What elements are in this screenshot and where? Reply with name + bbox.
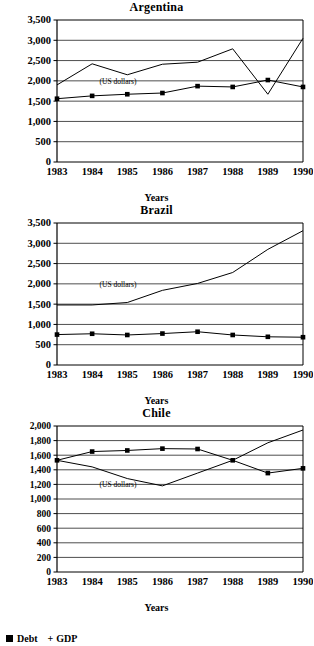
y-tick-label: 1,000: [27, 116, 51, 127]
x-tick-label: 1989: [257, 166, 278, 177]
x-tick-label: 1990: [293, 166, 314, 177]
x-tick-label: 1990: [293, 369, 314, 380]
panel-chile: Chile 02004006008001,0001,2001,4001,6001…: [0, 406, 313, 613]
y-tick-label: 1,800: [30, 436, 52, 446]
panel-brazil: Brazil 05001,0001,5002,0002,5003,0003,50…: [0, 203, 313, 406]
debt-data-point: [160, 331, 165, 336]
x-axis-title-brazil: Years: [0, 395, 313, 406]
debt-data-point: [195, 329, 200, 334]
y-tick-label: 2,000: [30, 421, 52, 431]
debt-data-point: [266, 335, 271, 340]
y-tick-label: 2,000: [27, 278, 51, 289]
x-tick-label: 1985: [117, 369, 138, 380]
y-tick-label: 400: [37, 538, 52, 548]
debt-data-point: [230, 85, 235, 90]
legend-label-gdp: GDP: [56, 633, 77, 644]
y-tick-label: 3,500: [27, 217, 51, 228]
y-tick-label: 500: [35, 339, 51, 350]
y-tick-label: 3,000: [27, 238, 51, 249]
x-tick-label: 1989: [257, 576, 278, 587]
x-tick-label: 1985: [117, 166, 138, 177]
y-tick-label: 1,500: [27, 299, 51, 310]
x-tick-label: 1984: [82, 576, 104, 587]
gdp-series-plus-icon: +: [48, 633, 54, 644]
debt-data-point: [230, 333, 235, 338]
chart-title-chile: Chile: [0, 406, 313, 420]
y-tick-label: 3,000: [27, 35, 51, 46]
x-tick-label: 1989: [257, 369, 278, 380]
y-tick-label: 600: [37, 524, 52, 534]
panel-argentina: Argentina 05001,0001,5002,0002,5003,0003…: [0, 0, 313, 203]
us-dollars-annotation: (US dollars): [100, 280, 137, 289]
chart-title-argentina: Argentina: [0, 0, 313, 14]
x-axis-title-chile: Years: [0, 602, 313, 613]
gdp-series-line: [57, 231, 303, 305]
y-tick-label: 2,500: [27, 55, 51, 66]
y-tick-label: 500: [35, 136, 51, 147]
x-tick-label: 1988: [222, 576, 243, 587]
y-tick-label: 1,000: [27, 319, 51, 330]
x-tick-label: 1986: [152, 369, 173, 380]
x-tick-label: 1985: [117, 576, 138, 587]
chart-svg-argentina: 05001,0001,5002,0002,5003,0003,500198319…: [0, 14, 313, 192]
x-tick-label: 1984: [82, 369, 104, 380]
x-tick-label: 1983: [47, 369, 68, 380]
debt-data-point: [125, 333, 130, 338]
debt-data-point: [55, 458, 60, 463]
plot-chile: 02004006008001,0001,2001,4001,6001,8002,…: [0, 420, 313, 602]
y-tick-label: 1,600: [30, 451, 52, 461]
y-tick-label: 200: [37, 553, 52, 563]
legend-label-debt: Debt: [17, 633, 38, 644]
legend: Debt + GDP: [6, 633, 87, 644]
y-tick-label: 3,500: [27, 14, 51, 25]
x-tick-label: 1990: [293, 576, 314, 587]
debt-data-point: [125, 448, 130, 453]
debt-data-point: [125, 92, 130, 97]
x-tick-label: 1988: [222, 166, 243, 177]
debt-data-point: [160, 446, 165, 451]
debt-data-point: [230, 458, 235, 463]
debt-data-point: [195, 447, 200, 452]
debt-data-point: [90, 331, 95, 336]
chart-title-brazil: Brazil: [0, 203, 313, 217]
chart-svg-brazil: 05001,0001,5002,0002,5003,0003,500198319…: [0, 217, 313, 395]
debt-data-point: [301, 85, 306, 90]
x-tick-label: 1987: [187, 369, 208, 380]
debt-data-point: [160, 91, 165, 96]
y-tick-label: 1,200: [30, 480, 52, 490]
x-tick-label: 1983: [47, 576, 68, 587]
debt-data-point: [195, 84, 200, 89]
debt-data-point: [90, 449, 95, 454]
debt-data-point: [301, 466, 306, 471]
x-tick-label: 1988: [222, 369, 243, 380]
plot-argentina: 05001,0001,5002,0002,5003,0003,500198319…: [0, 14, 313, 192]
x-tick-label: 1986: [152, 166, 173, 177]
debt-data-point: [90, 94, 95, 99]
x-axis-title-argentina: Years: [0, 192, 313, 203]
us-dollars-annotation: (US dollars): [100, 480, 137, 489]
debt-series-swatch-icon: [6, 635, 13, 642]
x-tick-label: 1987: [187, 576, 208, 587]
plot-brazil: 05001,0001,5002,0002,5003,0003,500198319…: [0, 217, 313, 395]
chart-svg-chile: 02004006008001,0001,2001,4001,6001,8002,…: [0, 420, 313, 602]
x-tick-label: 1984: [82, 166, 104, 177]
y-tick-label: 1,000: [30, 494, 52, 504]
y-tick-label: 1,500: [27, 96, 51, 107]
x-tick-label: 1983: [47, 166, 68, 177]
debt-data-point: [55, 332, 60, 337]
gdp-series-line: [57, 430, 303, 486]
y-tick-label: 2,500: [27, 258, 51, 269]
y-tick-label: 800: [37, 509, 52, 519]
gdp-series-line: [57, 38, 303, 94]
y-tick-label: 1,400: [30, 465, 52, 475]
y-tick-label: 2,000: [27, 75, 51, 86]
us-dollars-annotation: (US dollars): [100, 77, 137, 86]
x-tick-label: 1987: [187, 166, 208, 177]
debt-data-point: [55, 96, 60, 101]
debt-data-point: [301, 335, 306, 340]
debt-data-point: [266, 78, 271, 83]
x-tick-label: 1986: [152, 576, 173, 587]
debt-data-point: [266, 471, 271, 476]
